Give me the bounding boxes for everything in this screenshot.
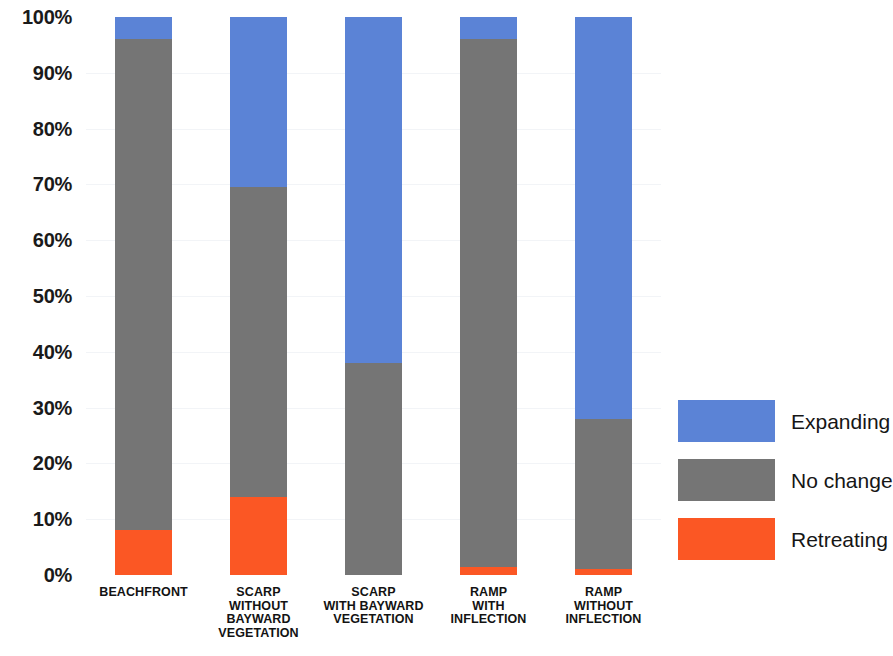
bar-segment-no-change[interactable] bbox=[345, 363, 402, 575]
bar-segment-retreating[interactable] bbox=[230, 497, 287, 575]
bar-segment-no-change[interactable] bbox=[115, 39, 172, 530]
bar-segment-no-change[interactable] bbox=[575, 419, 632, 570]
y-axis-tick-label: 100% bbox=[0, 7, 72, 27]
legend-item[interactable]: Retreating bbox=[678, 518, 875, 560]
x-axis: BEACHFRONTSCARP WITHOUT BAYWARD VEGETATI… bbox=[86, 586, 661, 656]
x-axis-tick-label: RAMP WITHOUT INFLECTION bbox=[546, 586, 661, 627]
y-axis-tick-label: 70% bbox=[0, 174, 72, 194]
bar-segment-retreating[interactable] bbox=[115, 530, 172, 575]
bar-segment-retreating[interactable] bbox=[460, 567, 517, 575]
bar-segment-expanding[interactable] bbox=[575, 17, 632, 419]
legend-item[interactable]: No change bbox=[678, 459, 875, 501]
bar-stack bbox=[345, 17, 402, 575]
x-axis-tick-label: SCARP WITH BAYWARD VEGETATION bbox=[316, 586, 431, 627]
legend-item[interactable]: Expanding bbox=[678, 400, 875, 442]
bar-segment-expanding[interactable] bbox=[345, 17, 402, 363]
y-axis: 100%90%80%70%60%50%40%30%20%10%0% bbox=[0, 0, 78, 656]
x-axis-tick-label: BEACHFRONT bbox=[86, 586, 201, 600]
bar-segment-expanding[interactable] bbox=[460, 17, 517, 39]
y-axis-tick-label: 90% bbox=[0, 63, 72, 83]
legend-color-swatch bbox=[678, 518, 775, 560]
x-axis-tick-label: SCARP WITHOUT BAYWARD VEGETATION bbox=[201, 586, 316, 640]
legend-label: Expanding bbox=[791, 411, 890, 432]
legend-color-swatch bbox=[678, 459, 775, 501]
bar-segment-no-change[interactable] bbox=[230, 187, 287, 497]
y-axis-tick-label: 20% bbox=[0, 453, 72, 473]
y-axis-tick-label: 40% bbox=[0, 342, 72, 362]
y-axis-tick-label: 80% bbox=[0, 119, 72, 139]
legend-label: No change bbox=[791, 470, 893, 491]
bar-group[interactable] bbox=[460, 17, 517, 575]
plot-area bbox=[86, 17, 661, 575]
y-axis-tick-label: 0% bbox=[0, 565, 72, 585]
bar-stack bbox=[460, 17, 517, 575]
bar-stack bbox=[230, 17, 287, 575]
bar-group[interactable] bbox=[230, 17, 287, 575]
y-axis-tick-label: 60% bbox=[0, 230, 72, 250]
bar-stack bbox=[575, 17, 632, 575]
bar-group[interactable] bbox=[345, 17, 402, 575]
y-axis-tick-label: 30% bbox=[0, 398, 72, 418]
bar-group[interactable] bbox=[115, 17, 172, 575]
y-axis-tick-label: 10% bbox=[0, 509, 72, 529]
bar-segment-expanding[interactable] bbox=[115, 17, 172, 39]
legend-color-swatch bbox=[678, 400, 775, 442]
y-axis-tick-label: 50% bbox=[0, 286, 72, 306]
bar-segment-retreating[interactable] bbox=[575, 569, 632, 575]
chart-legend: ExpandingNo changeRetreating bbox=[678, 400, 875, 577]
bar-segment-no-change[interactable] bbox=[460, 39, 517, 566]
x-axis-tick-label: RAMP WITH INFLECTION bbox=[431, 586, 546, 627]
bar-group[interactable] bbox=[575, 17, 632, 575]
bar-segment-expanding[interactable] bbox=[230, 17, 287, 187]
bar-stack bbox=[115, 17, 172, 575]
legend-label: Retreating bbox=[791, 529, 888, 550]
